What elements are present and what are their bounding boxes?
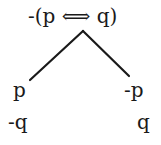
right-branch-line-2: q [137,112,150,132]
right-branch-line [83,31,129,76]
left-branch-line-2: -q [8,112,28,132]
right-branch-line-1: -p [124,80,144,100]
left-branch-line-1: p [13,80,26,100]
root-formula: -(p ⟺ q) [28,6,117,26]
left-branch-line [30,31,83,80]
